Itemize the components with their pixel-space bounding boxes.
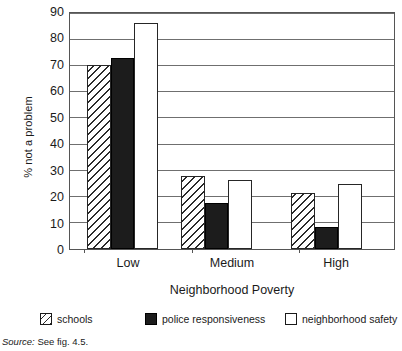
y-tick-label: 10 [30,217,64,231]
legend-swatch-solid-icon [145,313,157,325]
x-tick-label-high: High [323,256,349,270]
x-axis-title: Neighborhood Poverty [69,283,395,297]
legend-label-police-responsiveness: police responsiveness [162,313,265,325]
bar-high-schools [291,193,315,249]
source-note-text: See fig. 4.5. [37,336,88,347]
bar-medium-schools [181,176,205,249]
x-tick-mark [84,249,85,253]
legend-item-neighborhood-safety: neighborhood safety [285,313,397,325]
y-tick-label: 40 [30,137,64,151]
bar-high-police-responsiveness [315,227,339,249]
legend-label-neighborhood-safety: neighborhood safety [302,313,397,325]
source-note: Source: See fig. 4.5. [2,336,88,347]
x-tick-mark [192,249,193,253]
gridline [70,13,394,14]
x-axis-labels: Low Medium High [69,256,395,276]
y-tick-label: 90 [30,5,64,19]
x-tick-label-low: Low [117,256,140,270]
bar-medium-police-responsiveness [205,203,229,249]
legend-swatch-hatched-icon [40,313,52,325]
legend-label-schools: schools [57,313,93,325]
gridline [70,39,394,40]
source-note-prefix: Source: [2,336,35,347]
legend-swatch-empty-icon [285,313,297,325]
plot-inner [70,13,394,249]
chart-legend: schools police responsiveness neighborho… [40,313,392,331]
bar-low-schools [87,65,111,249]
y-tick-label: 50 [30,111,64,125]
bar-low-police-responsiveness [111,58,135,249]
y-tick-label: 30 [30,164,64,178]
legend-item-police-responsiveness: police responsiveness [145,313,265,325]
legend-item-schools: schools [40,313,93,325]
bar-medium-neighborhood-safety [228,180,252,249]
y-tick-label: 60 [30,84,64,98]
y-tick-label: 0 [30,243,64,257]
bar-chart-figure: % not a problem 90 80 70 60 50 40 30 20 … [0,0,402,351]
y-tick-label: 70 [30,58,64,72]
x-tick-label-medium: Medium [210,256,254,270]
plot-area [69,12,395,250]
bar-low-neighborhood-safety [134,23,158,249]
y-tick-label: 20 [30,190,64,204]
x-tick-mark [299,249,300,253]
y-axis-ticks: 90 80 70 60 50 40 30 20 10 0 [30,12,64,250]
bar-high-neighborhood-safety [338,184,362,249]
y-tick-label: 80 [30,31,64,45]
